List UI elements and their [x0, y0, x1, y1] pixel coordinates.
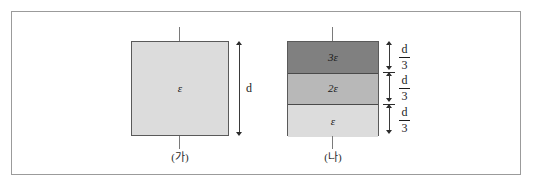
figure-b-layer-epsilon-label: ε: [331, 116, 335, 127]
figure-a-layer-epsilon: ε: [132, 42, 228, 135]
figure-root: ε (가) d 3ε 2ε ε: [0, 0, 534, 187]
figure-a-top-lead: [179, 27, 180, 41]
figure-a-dim-arrow-bottom: [236, 132, 242, 136]
figure-b-dim1-denominator: 3: [400, 59, 410, 72]
figure-b-dim1-numerator: d: [400, 43, 410, 56]
figure-a-layer-label: ε: [178, 83, 182, 94]
figure-b-layer-2epsilon-label: 2ε: [328, 83, 338, 94]
figure-b-dim2-line: [389, 75, 390, 98]
figure-b-layer-epsilon: ε: [288, 105, 378, 137]
figure-b-dim3-numerator: d: [400, 106, 410, 119]
figure-b-layer-3epsilon: 3ε: [288, 42, 378, 74]
figure-a-dim-label: d: [246, 81, 252, 96]
figure-b-block: 3ε 2ε ε: [287, 41, 379, 136]
figure-b-layer-2epsilon: 2ε: [288, 74, 378, 106]
figure-b-caption: (나): [278, 148, 388, 164]
figure-b-dim3-denominator: 3: [400, 122, 410, 135]
figure-a-block: ε: [131, 41, 229, 136]
figure-b-dim3-arrow-bottom: [386, 130, 392, 134]
figure-b-dim1-line: [389, 44, 390, 66]
figure-b-dim3-fraction: d 3: [399, 106, 410, 134]
figure-border-frame: [11, 11, 521, 175]
figure-b-dim3-line: [389, 107, 390, 130]
figure-b-top-lead: [332, 27, 333, 41]
figure-b-dim2-fraction: d 3: [399, 74, 410, 102]
figure-b-dim1-arrow-bottom: [386, 66, 392, 70]
figure-a-group: ε (가): [131, 27, 229, 157]
figure-a-dim-line: [239, 44, 240, 133]
figure-b-group: 3ε 2ε ε (나): [287, 27, 379, 157]
figure-b-layer-3epsilon-label: 3ε: [328, 52, 338, 63]
figure-b-dim1-fraction: d 3: [399, 43, 410, 71]
figure-a-caption: (가): [125, 148, 235, 164]
figure-b-dim2-numerator: d: [400, 74, 410, 87]
figure-b-dim2-denominator: 3: [400, 90, 410, 103]
figure-b-dim2-arrow-bottom: [386, 98, 392, 102]
